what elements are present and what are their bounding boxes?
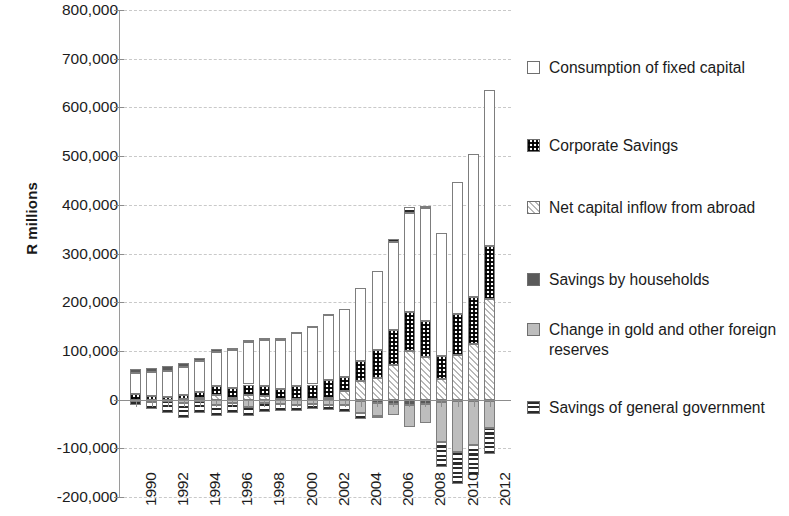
legend-item[interactable]: Consumption of fixed capital <box>527 58 745 78</box>
bar-stack[interactable] <box>452 10 463 497</box>
x-tick-mark <box>232 400 233 407</box>
bar-stack[interactable] <box>307 10 318 497</box>
bar-stack[interactable] <box>484 10 495 497</box>
bar-segment <box>211 386 222 395</box>
bar-segment <box>211 349 222 351</box>
bar-segment <box>452 182 463 314</box>
x-tick-label: 2006 <box>399 472 417 506</box>
bar-segment <box>484 246 495 299</box>
bar-segment <box>452 401 463 452</box>
bar-stack[interactable] <box>211 10 222 497</box>
bar-segment <box>484 299 495 400</box>
bar-segment <box>468 344 479 400</box>
bar-stack[interactable] <box>130 10 141 497</box>
bar-segment <box>420 357 431 400</box>
bar-stack[interactable] <box>420 10 431 497</box>
bar-segment <box>404 351 415 399</box>
y-tick-mark <box>114 448 124 449</box>
x-tick-mark <box>458 400 459 407</box>
x-tick-label: 1994 <box>206 472 224 506</box>
legend-item[interactable]: Net capital inflow from abroad <box>527 198 755 218</box>
y-tick-mark <box>114 107 124 108</box>
y-tick-mark <box>114 497 124 498</box>
bar-segment <box>227 350 238 388</box>
x-tick-mark <box>297 400 298 407</box>
bar-segment <box>194 358 205 361</box>
bar-stack[interactable] <box>388 10 399 497</box>
x-tick-mark <box>441 400 442 407</box>
bar-segment <box>355 288 366 361</box>
bar-segment <box>372 378 383 400</box>
x-tick-mark <box>216 400 217 407</box>
bar-segment <box>452 355 463 400</box>
x-tick-label: 2008 <box>431 472 449 506</box>
x-tick-label: 1996 <box>238 472 256 506</box>
bar-stack[interactable] <box>404 10 415 497</box>
bar-stack[interactable] <box>146 10 157 497</box>
y-tick-mark <box>114 351 124 352</box>
x-tick-mark <box>280 400 281 407</box>
bar-stack[interactable] <box>323 10 334 497</box>
legend-label: Change in gold and other foreign reserve… <box>549 320 787 360</box>
bar-segment <box>388 330 399 365</box>
bar-segment <box>484 428 495 454</box>
bar-stack[interactable] <box>178 10 189 497</box>
bar-segment <box>452 452 463 484</box>
bar-stack[interactable] <box>339 10 350 497</box>
y-tick-mark <box>114 400 124 401</box>
x-tick-label: 2004 <box>367 472 385 506</box>
bar-stack[interactable] <box>243 10 254 497</box>
y-tick-label: -200,000 <box>22 489 118 505</box>
bar-segment <box>436 402 447 443</box>
y-tick-label: 500,000 <box>22 148 118 164</box>
x-tick-mark <box>409 400 410 407</box>
x-tick-mark <box>168 400 169 407</box>
bar-segment <box>211 405 222 416</box>
bar-segment <box>227 348 238 350</box>
y-tick-label: 600,000 <box>22 99 118 115</box>
bar-segment <box>178 363 189 367</box>
legend-label: Savings by households <box>549 270 709 290</box>
bar-segment <box>388 242 399 330</box>
zero-axis-line <box>119 400 511 401</box>
bar-segment <box>259 340 270 386</box>
bar-stack[interactable] <box>436 10 447 497</box>
legend-swatch-solid-dark <box>527 273 540 286</box>
x-tick-mark <box>393 400 394 407</box>
bar-segment <box>178 395 189 399</box>
legend-item[interactable]: Savings by households <box>527 270 709 290</box>
bar-segment <box>372 416 383 418</box>
bar-segment <box>307 326 318 328</box>
y-tick-label: 300,000 <box>22 246 118 262</box>
legend-item[interactable]: Savings of general government <box>527 398 765 418</box>
bar-stack[interactable] <box>227 10 238 497</box>
bar-segment <box>339 309 350 377</box>
bar-stack[interactable] <box>194 10 205 497</box>
y-tick-label: 200,000 <box>22 294 118 310</box>
bar-segment <box>146 368 157 372</box>
x-tick-mark <box>313 400 314 407</box>
bar-segment <box>436 356 447 378</box>
bar-stack[interactable] <box>275 10 286 497</box>
chart-figure: R millions 800,000700,000600,000500,0004… <box>0 0 789 516</box>
bar-segment <box>275 389 286 399</box>
bar-segment <box>404 213 415 313</box>
bar-segment <box>291 332 302 334</box>
legend-item[interactable]: Corporate Savings <box>527 136 678 156</box>
legend-label: Consumption of fixed capital <box>549 58 745 78</box>
bar-segment <box>178 367 189 395</box>
x-tick-mark <box>264 400 265 407</box>
bar-segment <box>355 381 366 400</box>
bar-segment <box>162 371 173 397</box>
y-tick-mark <box>114 59 124 60</box>
bar-stack[interactable] <box>162 10 173 497</box>
y-tick-label: 400,000 <box>22 197 118 213</box>
bar-stack[interactable] <box>291 10 302 497</box>
bar-stack[interactable] <box>355 10 366 497</box>
bar-stack[interactable] <box>372 10 383 497</box>
bar-segment <box>468 154 479 297</box>
legend-item[interactable]: Change in gold and other foreign reserve… <box>527 320 787 360</box>
bar-stack[interactable] <box>259 10 270 497</box>
bar-stack[interactable] <box>468 10 479 497</box>
y-tick-label: 800,000 <box>22 2 118 18</box>
